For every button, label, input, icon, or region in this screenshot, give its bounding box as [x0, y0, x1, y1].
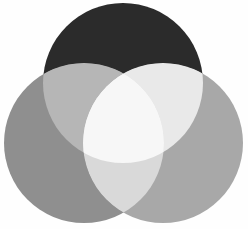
venn-diagram-canvas: [0, 0, 248, 229]
venn-diagram-figure: [0, 0, 248, 229]
